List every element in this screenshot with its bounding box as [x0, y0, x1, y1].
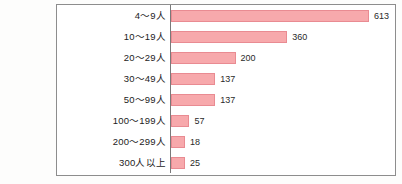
bar-chart: 4〜9人 613 10〜19人 360 20〜29人 200 30〜49人	[0, 0, 402, 184]
category-label: 20〜29人	[124, 47, 166, 68]
bar-group: 613	[171, 5, 389, 26]
bar-value-label: 360	[292, 31, 307, 43]
bar-rect	[171, 94, 215, 106]
bar-group: 18	[171, 131, 200, 152]
bar-value-label: 200	[241, 52, 256, 64]
bar-value-label: 137	[220, 94, 235, 106]
bar-row: 50〜99人 137	[0, 89, 402, 110]
bar-row: 30〜49人 137	[0, 68, 402, 89]
bar-value-label: 25	[190, 157, 200, 169]
bar-row: 4〜9人 613	[0, 5, 402, 26]
bar-value-label: 18	[190, 136, 200, 148]
bar-value-label: 613	[374, 10, 389, 22]
bar-rect	[171, 157, 185, 169]
bar-rect	[171, 31, 287, 43]
category-label: 10〜19人	[124, 26, 166, 47]
bar-row: 20〜29人 200	[0, 47, 402, 68]
bar-row: 200〜299人 18	[0, 131, 402, 152]
category-label: 50〜99人	[124, 89, 166, 110]
bar-row: 100〜199人 57	[0, 110, 402, 131]
bar-rect	[171, 73, 215, 85]
bar-row: 300人以上 25	[0, 152, 402, 173]
category-label: 30〜49人	[124, 68, 166, 89]
bar-group: 200	[171, 47, 256, 68]
bar-rect	[171, 115, 189, 127]
bar-group: 25	[171, 152, 200, 173]
category-label: 100〜199人	[113, 110, 166, 131]
category-label: 4〜9人	[135, 5, 166, 26]
bar-rect	[171, 52, 236, 64]
bar-rows: 4〜9人 613 10〜19人 360 20〜29人 200 30〜49人	[0, 5, 402, 173]
bar-group: 57	[171, 110, 204, 131]
bar-group: 137	[171, 68, 235, 89]
bar-row: 10〜19人 360	[0, 26, 402, 47]
bar-value-label: 57	[194, 115, 204, 127]
bar-rect	[171, 10, 369, 22]
bar-rect	[171, 136, 185, 148]
category-label: 200〜299人	[113, 131, 166, 152]
bar-group: 360	[171, 26, 307, 47]
bar-group: 137	[171, 89, 235, 110]
bar-value-label: 137	[220, 73, 235, 85]
category-label: 300人以上	[119, 152, 166, 173]
